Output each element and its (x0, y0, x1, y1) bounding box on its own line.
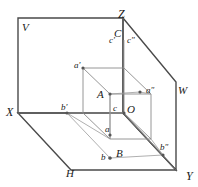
point-c-prime-label: c' (109, 36, 115, 45)
point-b-lower-marker (108, 156, 111, 159)
ray-O-to-b-double (124, 113, 163, 155)
point-c-double-label: c″ (127, 36, 135, 45)
point-a-double-marker (138, 90, 141, 93)
cube-front-face (110, 94, 151, 139)
point-a-prime-label: a' (74, 61, 80, 70)
axis-x-label: X (6, 106, 13, 118)
horizontal-plane-label: H (66, 168, 74, 179)
origin-label: O (127, 104, 135, 115)
y-axis-line (123, 113, 176, 170)
point-A-label: A (97, 89, 104, 100)
point-a-prime-marker (81, 66, 84, 69)
horizontal-plane-outline (18, 113, 176, 170)
point-b-double-label: b″ (160, 143, 168, 152)
projection-diagram: VHWZXYOABCa'aa″b'bb″c'c″c (0, 0, 198, 187)
point-A-marker (108, 92, 111, 95)
vertical-plane-outline (18, 18, 123, 113)
vertical-plane-label: V (22, 22, 29, 33)
point-b-prime-label: b' (61, 103, 67, 112)
point-a-lower-label: a (105, 125, 110, 134)
point-C-label: C (114, 28, 121, 39)
point-c-lower-label: c (113, 104, 117, 113)
axis-y-label: Y (186, 170, 193, 182)
profile-plane-label: W (178, 85, 187, 96)
axis-z-label: Z (118, 8, 125, 20)
origin-marker (122, 111, 125, 114)
point-B-label: B (116, 148, 123, 159)
point-b-double-marker (161, 153, 164, 156)
cube-wireframe (83, 68, 151, 139)
point-a-double-label: a″ (146, 86, 154, 95)
point-b-lower-label: b (101, 153, 106, 162)
